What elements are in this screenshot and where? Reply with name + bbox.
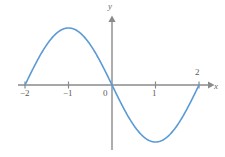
y-axis-arrowhead <box>108 16 115 23</box>
graph-canvas <box>0 0 225 157</box>
x-axis-label: x <box>214 82 218 91</box>
x-tick-label-minus-2: −2 <box>20 89 30 98</box>
sine-curve-figure: y x −2 −1 0 1 2 <box>0 0 225 157</box>
x-tick-label-2: 2 <box>195 68 200 77</box>
y-axis-label: y <box>108 2 112 11</box>
x-tick-label-minus-1: −1 <box>63 89 73 98</box>
origin-label: 0 <box>103 89 108 98</box>
x-tick-label-1: 1 <box>152 89 157 98</box>
